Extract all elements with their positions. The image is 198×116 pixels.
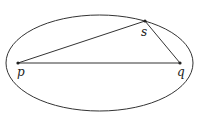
point-s xyxy=(143,19,146,22)
label-q: q xyxy=(177,65,185,79)
points xyxy=(16,19,181,64)
label-p: p xyxy=(17,65,25,79)
point-labels: pqs xyxy=(17,25,185,79)
triangle-segments xyxy=(18,21,180,63)
label-s: s xyxy=(141,25,147,39)
ellipse-triangle-diagram: pqs xyxy=(0,0,198,116)
